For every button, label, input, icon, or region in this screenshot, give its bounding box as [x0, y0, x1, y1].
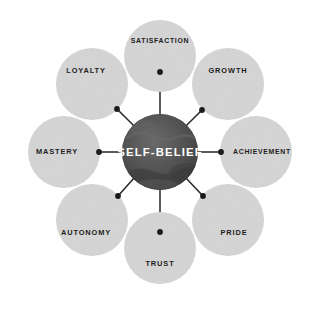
connector-dot-satisfaction — [157, 69, 163, 75]
core-node[interactable]: SELF-BELIEF — [117, 114, 203, 201]
connector-dot-trust — [157, 229, 163, 235]
satellite-label-growth: GROWTH — [208, 66, 247, 75]
satellite-label-mastery: MASTERY — [36, 147, 78, 156]
connector-line-loyalty — [117, 109, 134, 126]
connector-line-growth — [186, 110, 202, 126]
connector-dot-loyalty — [114, 106, 120, 112]
connector-dot-growth — [199, 107, 205, 113]
satellite-circle-satisfaction[interactable] — [124, 20, 196, 92]
connector-line-autonomy — [118, 178, 134, 196]
satellite-label-loyalty: LOYALTY — [66, 66, 106, 75]
satellite-circle-trust[interactable] — [124, 212, 196, 284]
core-label: SELF-BELIEF — [117, 146, 203, 158]
connector-dot-pride — [200, 193, 206, 199]
connector-line-pride — [186, 178, 203, 196]
self-belief-diagram: SELF-BELIEF SATISFACTIONGROWTHACHIEVEMEN… — [0, 0, 320, 311]
satellite-label-satisfaction: SATISFACTION — [131, 37, 189, 44]
connector-dot-mastery — [96, 149, 102, 155]
diagram-canvas: SELF-BELIEF SATISFACTIONGROWTHACHIEVEMEN… — [0, 0, 320, 311]
satellite-label-pride: PRIDE — [220, 228, 247, 237]
satellite-label-trust: TRUST — [145, 259, 174, 268]
connector-dot-autonomy — [115, 193, 121, 199]
satellite-label-autonomy: AUTONOMY — [61, 228, 111, 237]
connector-dot-achievement — [218, 149, 224, 155]
satellite-label-achievement: ACHIEVEMENT — [233, 148, 291, 155]
